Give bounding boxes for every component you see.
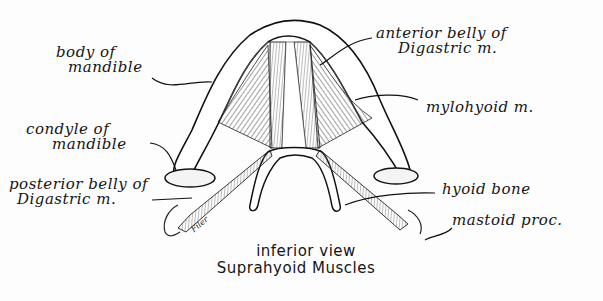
label-hyoid-bone: hyoid bone: [442, 182, 531, 197]
right-mastoid: [408, 210, 421, 234]
left-condyle: [165, 169, 215, 187]
label-body-of-mandible: body of mandible: [56, 45, 143, 75]
label-condyle-of-mandible: condyle of mandible: [26, 122, 127, 152]
label-line: Digastric m.: [398, 41, 507, 56]
posterior-belly-digastric: [178, 150, 408, 232]
label-anterior-belly-digastric: anterior belly of Digastric m.: [376, 26, 507, 56]
caption: inferior view Suprahyoid Muscles: [186, 243, 406, 277]
label-line: Digastric m.: [17, 192, 148, 207]
caption-title: Suprahyoid Muscles: [186, 260, 406, 277]
label-mylohyoid: mylohyoid m.: [426, 100, 534, 115]
label-mastoid-process: mastoid proc.: [452, 213, 563, 228]
label-line: hyoid bone: [442, 182, 531, 197]
left-mastoid: [164, 205, 180, 236]
label-posterior-belly-digastric: posterior belly of Digastric m.: [9, 177, 148, 207]
suprahyoid-diagram: body of mandible condyle of mandible pos…: [0, 0, 603, 301]
label-line: mylohyoid m.: [426, 100, 534, 115]
label-line: mandible: [52, 137, 127, 152]
label-line: mandible: [68, 60, 143, 75]
label-line: mastoid proc.: [452, 213, 563, 228]
right-condyle: [374, 168, 418, 184]
caption-subtitle: inferior view: [206, 243, 406, 260]
